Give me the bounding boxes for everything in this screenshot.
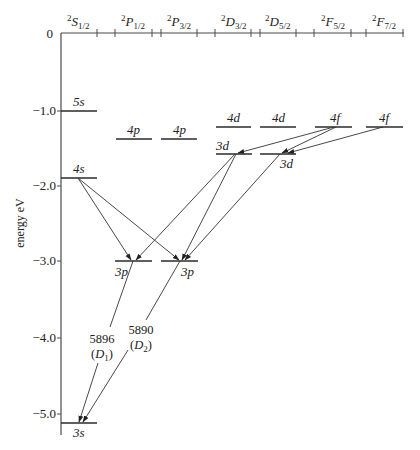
label-4s: 4s [73,161,85,176]
d1-name: (D1) [91,347,113,363]
term-label-p32: 2P3/2 [167,13,191,31]
label-5s: 5s [73,94,85,109]
label-3s: 3s [72,425,85,440]
label-4p-p32: 4p [173,122,187,137]
d2-name: (D2) [130,338,152,354]
label-4d-d52: 4d [272,110,286,125]
y-axis-label: energy eV [13,198,27,248]
term-label-s12: 2S1/2 [67,13,90,31]
transition-4f52-3d32 [238,127,334,153]
d2-wavelength: 5890 [129,323,154,337]
transition-4f52-3d52 [282,127,336,153]
transition-3d52-3p32 [185,154,280,260]
transition-4s-3p32 [78,178,179,260]
d1-wavelength: 5896 [90,332,115,346]
energy-level-diagram: 0 −1.0 −2.0 −3.0 −4.0 −5.0 energy eV 2S1… [0,0,420,450]
transition-4s-3p12 [78,178,131,260]
transition-3d32-3p12 [136,154,235,260]
y-tick-label-5: −5.0 [32,406,56,421]
term-label-d52: 2D5/2 [265,13,290,31]
term-label-f52: 2F5/2 [321,13,345,31]
y-tick-label-3: −3.0 [32,253,56,268]
y-tick-label-1: −1.0 [32,103,56,118]
d-line-labels: 5896 (D1) 5890 (D2) [90,323,154,363]
transition-4f72-3d52 [288,127,383,153]
term-label-d32: 2D3/2 [221,13,246,31]
label-3d-d32: 3d [215,138,230,153]
term-label-p12: 2P1/2 [121,13,145,31]
label-3p-p12: 3p [114,264,129,279]
term-label-f72: 2F7/2 [372,13,396,31]
level-labels: 5s 4s 3s 4p 4p 3p 3p 4d 4d 3d 3d 4f 4f [72,94,392,440]
label-4f-f52: 4f [330,110,343,125]
label-4p-p12: 4p [127,122,141,137]
label-3d-d52: 3d [279,156,294,171]
y-tick-label-4: −4.0 [32,330,56,345]
label-4f-f72: 4f [379,110,392,125]
label-4d-d32: 4d [227,110,241,125]
y-tick-label-0: 0 [47,26,54,41]
y-tick-label-2: −2.0 [32,178,56,193]
transition-3d32-3p32 [182,154,236,260]
transition-d2-upper [146,261,180,320]
column-labels: 2S1/2 2P1/2 2P3/2 2D3/2 2D5/2 2F5/2 2F7/… [67,13,396,31]
axes: 0 −1.0 −2.0 −3.0 −4.0 −5.0 energy eV [13,26,404,435]
label-3p-p32: 3p [180,264,195,279]
